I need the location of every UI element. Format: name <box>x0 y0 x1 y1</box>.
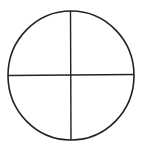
horizontal-divider <box>8 75 134 76</box>
quadrant-circle-diagram <box>0 0 143 148</box>
